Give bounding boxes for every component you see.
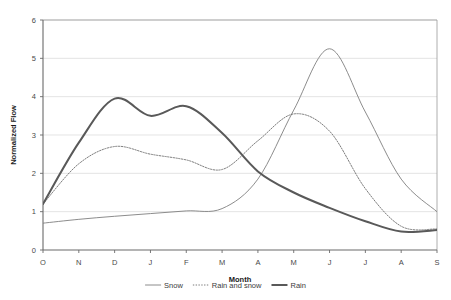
legend-label-rain: Rain: [290, 281, 305, 290]
x-tick-label-8: J: [328, 258, 332, 267]
x-tick-label-11: S: [434, 258, 439, 267]
y-tick-label-5: 5: [32, 54, 36, 63]
x-tick-label-2: D: [112, 258, 118, 267]
x-tick-label-7: M: [291, 258, 297, 267]
x-tick-label-4: F: [184, 258, 189, 267]
y-tick-label-3: 3: [32, 131, 36, 140]
legend-label-snow: Snow: [164, 281, 183, 290]
chart-container: 0123456ONDJFMAMJJASMonthNormalized FlowS…: [0, 0, 451, 300]
y-tick-label-4: 4: [32, 92, 36, 101]
y-tick-label-0: 0: [32, 246, 36, 255]
x-tick-label-1: N: [76, 258, 81, 267]
y-axis-title: Normalized Flow: [9, 105, 18, 165]
x-tick-label-6: A: [255, 258, 260, 267]
x-tick-label-9: J: [363, 258, 367, 267]
y-tick-label-6: 6: [32, 16, 36, 25]
legend-label-rain-and-snow: Rain and snow: [212, 281, 262, 290]
y-tick-label-2: 2: [32, 169, 36, 178]
x-tick-label-0: O: [40, 258, 46, 267]
x-tick-label-5: M: [219, 258, 225, 267]
x-tick-label-3: J: [149, 258, 153, 267]
y-tick-label-1: 1: [32, 207, 36, 216]
x-tick-label-10: A: [399, 258, 404, 267]
line-chart: 0123456ONDJFMAMJJASMonthNormalized FlowS…: [0, 0, 451, 300]
